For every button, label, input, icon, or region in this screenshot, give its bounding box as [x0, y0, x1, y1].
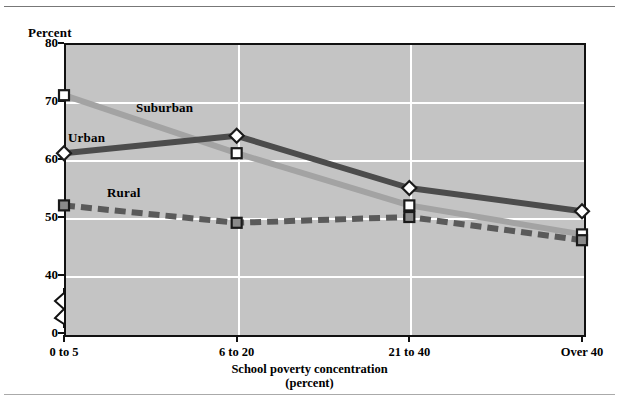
x-axis-title-line2: (percent) [0, 376, 619, 391]
x-tick-mark-2 [408, 335, 410, 342]
y-axis-break-icon [51, 288, 73, 328]
y-tick-mark-80 [58, 42, 64, 44]
chart-figure: Percent 04050607080 0 to 56 to 2021 to 4… [0, 0, 619, 403]
y-tick-label-80: 80 [18, 36, 58, 49]
gridline-horizontal-40 [66, 276, 584, 278]
y-tick-mark-0 [58, 332, 64, 334]
y-tick-label-60: 60 [18, 152, 58, 165]
y-tick-mark-40 [58, 274, 64, 276]
x-tick-mark-3 [581, 335, 583, 342]
x-tick-label-1: 6 to 20 [219, 345, 254, 360]
x-tick-label-3: Over 40 [561, 345, 603, 360]
gridline-horizontal-60 [66, 160, 584, 162]
x-axis-title: School poverty concentration (percent) [0, 362, 619, 391]
gridline-vertical-1 [238, 45, 240, 335]
gridlines [66, 45, 584, 335]
y-tick-label-40: 40 [18, 268, 58, 281]
x-tick-mark-0 [63, 335, 65, 342]
gridline-vertical-2 [410, 45, 412, 335]
gridline-horizontal-50 [66, 218, 584, 220]
x-axis-title-line1: School poverty concentration [231, 362, 387, 376]
bottom-divider-rule [4, 394, 615, 395]
x-tick-label-0: 0 to 5 [49, 345, 78, 360]
x-tick-mark-1 [236, 335, 238, 342]
y-tick-label-50: 50 [18, 210, 58, 223]
series-label-urban: Urban [68, 130, 105, 146]
x-tick-label-2: 21 to 40 [388, 345, 430, 360]
y-tick-mark-60 [58, 158, 64, 160]
top-divider-rule [4, 6, 615, 7]
series-label-rural: Rural [107, 185, 141, 201]
series-label-suburban: Suburban [136, 100, 193, 116]
y-tick-mark-50 [58, 216, 64, 218]
y-tick-label-70: 70 [18, 94, 58, 107]
plot-area [64, 43, 586, 337]
y-tick-mark-70 [58, 100, 64, 102]
